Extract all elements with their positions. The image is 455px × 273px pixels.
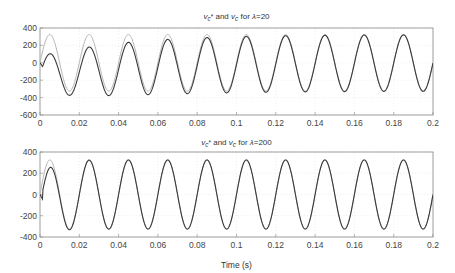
x-tick-label: 0 [38, 118, 43, 128]
x-tick-label: 0 [38, 240, 43, 250]
x-tick-label: 0.12 [268, 240, 285, 250]
y-tick-labels: 4002000-200-400 [20, 147, 43, 242]
x-tick-label: 0.18 [385, 240, 402, 250]
x-tick-labels: 00.020.040.060.080.10.120.140.160.180.2 [38, 112, 440, 128]
x-tick-label: 0.08 [189, 240, 206, 250]
x-tick-label: 0.06 [150, 118, 167, 128]
x-tick-label: 0.08 [189, 118, 206, 128]
x-tick-label: 0.04 [110, 240, 127, 250]
subplot-2: 00.020.040.060.080.10.120.140.160.180.24… [20, 138, 439, 270]
x-tick-label: 0.14 [307, 240, 324, 250]
y-tick-labels: 4002000-200-400-600 [20, 23, 43, 120]
y-tick-label: -400 [20, 232, 37, 242]
y-tick-label: 400 [23, 147, 37, 157]
x-tick-label: 0.2 [427, 240, 439, 250]
x-tick-label: 0.02 [71, 240, 88, 250]
x-tick-label: 0.04 [110, 118, 127, 128]
y-tick-label: -400 [20, 93, 37, 103]
x-tick-label: 0.06 [150, 240, 167, 250]
y-tick-label: -600 [20, 110, 37, 120]
figure-canvas: 00.020.040.060.080.10.120.140.160.180.24… [0, 0, 455, 273]
x-tick-label: 0.12 [268, 118, 285, 128]
y-tick-label: 400 [23, 23, 37, 33]
x-axis-label: Time (s) [221, 260, 252, 270]
y-tick-label: -200 [20, 211, 37, 221]
x-tick-label: 0.14 [307, 118, 324, 128]
x-tick-label: 0.1 [231, 118, 243, 128]
y-tick-label: 200 [23, 168, 37, 178]
x-tick-label: 0.16 [346, 118, 363, 128]
y-tick-label: 0 [32, 58, 37, 68]
plot-title: vc* and vc for λ=200 [201, 138, 272, 148]
x-tick-label: 0.18 [385, 118, 402, 128]
y-tick-label: -200 [20, 75, 37, 85]
x-tick-label: 0.16 [346, 240, 363, 250]
y-tick-label: 200 [23, 40, 37, 50]
x-tick-labels: 00.020.040.060.080.10.120.140.160.180.2 [38, 234, 440, 250]
x-tick-label: 0.1 [231, 240, 243, 250]
subplot-1: 00.020.040.060.080.10.120.140.160.180.24… [20, 12, 439, 128]
x-tick-label: 0.02 [71, 118, 88, 128]
plot-title: vc* and vc for λ=20 [203, 12, 270, 22]
x-tick-label: 0.2 [427, 118, 439, 128]
y-tick-label: 0 [32, 190, 37, 200]
